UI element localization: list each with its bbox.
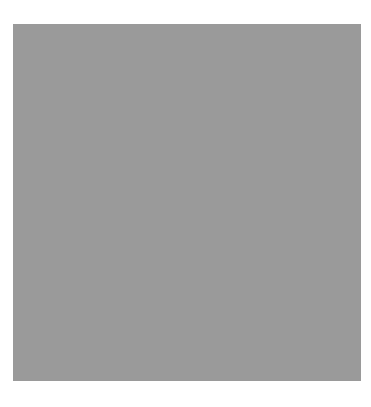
crossword-grid — [13, 24, 361, 381]
